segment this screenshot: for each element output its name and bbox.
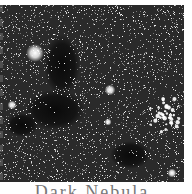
sky-canvas [0, 5, 184, 182]
image-caption: Dark Nebula [0, 183, 184, 194]
star-field-photo [0, 5, 184, 182]
